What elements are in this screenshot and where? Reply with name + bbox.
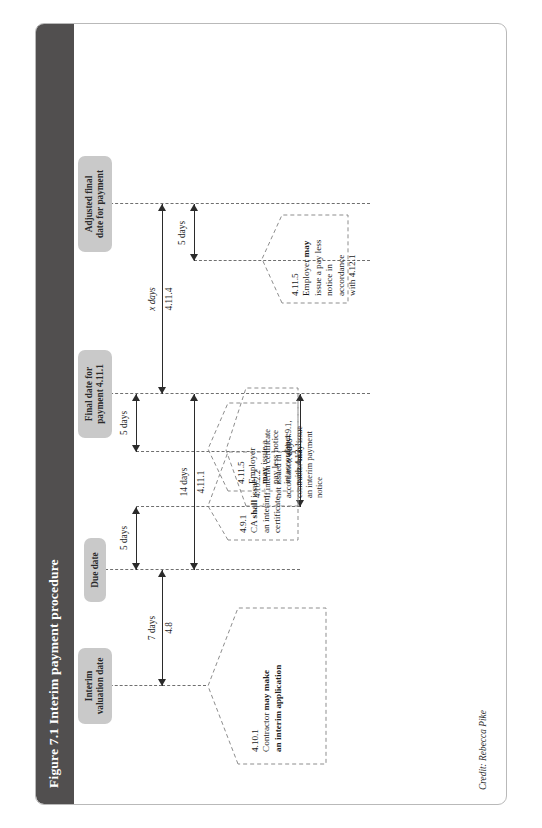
callout-4-10-1-ref: 4.10.1 (250, 612, 261, 752)
rule-interim-valuation-date-lower (162, 685, 206, 686)
callout-4-9-1-line1a: CA (249, 518, 259, 533)
figure-canvas: Interim valuation date Due date Final da… (74, 24, 506, 804)
callout-4-10-2-2-line5: an interim payment (304, 386, 314, 498)
chip-due-date: Due date (84, 538, 106, 602)
arrow-line-14-days (194, 394, 195, 570)
callout-4-11-5-b-line3: notice in (324, 214, 335, 296)
chip-final-date-for-payment: Final date for payment 4.11.1 (78, 350, 112, 438)
chip-adjusted-final-date-line1: Adjusted final (84, 176, 95, 233)
chip-interim-valuation-date: Interim valuation date (78, 648, 112, 724)
arrow-line-5-days-pln (136, 394, 137, 452)
callout-4-10-2-2-line4a: contractor (294, 461, 304, 498)
arrow-head-left-5-days-adj (190, 254, 198, 261)
duration-label-5-days-cert: 5 days (119, 498, 129, 578)
rotated-figure-wrapper: Figure 7.1 Interim payment procedure Int… (35, 23, 507, 805)
chip-interim-valuation-date-line1: Interim (84, 671, 95, 701)
arrow-head-right-5-days-pln (132, 394, 140, 401)
chip-due-date-label: Due date (90, 552, 101, 587)
arrow-head-left-5-days-pln (132, 445, 140, 452)
callout-4-10-2-2: 4.10.2.2 If interim certificate not issu… (224, 386, 300, 508)
duration-label-7-days: 7 days (147, 588, 157, 668)
duration-label-14-days: 14 days (179, 442, 189, 522)
arrow-line-5-days-cert (136, 507, 137, 570)
callout-4-10-2-2-line3: accordance with 4.9.1, (283, 386, 293, 498)
callout-4-11-5-b-line1a: Employer (301, 257, 311, 296)
callout-4-10-2-2-text: 4.10.2.2 If interim certificate not issu… (252, 386, 325, 498)
callout-4-11-5-b-line4: accordance (336, 214, 347, 296)
callout-4-10-2-2-line1: If interim certificate (262, 386, 272, 498)
arrow-head-left-7-days (158, 679, 166, 686)
callout-4-11-5-b: 4.11.5 Employer may issue a pay less not… (260, 213, 350, 305)
arrow-head-right-5-days-cert (132, 507, 140, 514)
callout-4-11-5-b-line1: Employer may (301, 214, 312, 296)
callout-4-10-2-2-line2: not issued in (273, 386, 283, 498)
chip-final-date-line1: Final date for (84, 367, 95, 421)
callout-4-10-1-line2b: an interim application (273, 665, 283, 752)
callout-4-11-5-b-text: 4.11.5 Employer may issue a pay less not… (290, 214, 358, 296)
callout-4-11-5-b-line5: with 4.12.1 (347, 214, 358, 296)
arrow-line-5-days-adj (194, 204, 195, 261)
arrow-head-right-14-days (190, 394, 198, 401)
callout-4-10-1-line1: Contractor may make (261, 612, 272, 752)
duration-label-5-days-pln: 5 days (119, 383, 129, 463)
arrow-head-right-5-days-adj (190, 204, 198, 211)
chip-adjusted-final-date: Adjusted final date for payment (78, 156, 112, 252)
chip-final-date-line2: payment 4.11.1 (95, 364, 106, 424)
callout-4-11-5-b-line1b: may (301, 241, 311, 258)
figure-title-bar: Figure 7.1 Interim payment procedure (36, 23, 74, 804)
arrow-head-left-14-days (190, 563, 198, 570)
rule-due-date (100, 569, 300, 570)
rule-adjusted-final-date (100, 203, 370, 204)
callout-4-10-2-2-line4: contractor may issue (294, 386, 304, 498)
callout-4-11-5-b-ref: 4.11.5 (290, 214, 301, 296)
duration-label-x-days-final: x days (147, 259, 157, 339)
arrow-line-7-days (162, 570, 163, 686)
callout-4-10-1-line1a: Contractor (261, 710, 271, 752)
duration-clause-14-days: 4.11.1 (196, 442, 206, 522)
callout-4-10-2-2-line4b: may (294, 445, 304, 461)
arrow-head-left-5-days-cert (132, 563, 140, 570)
duration-label-5-days-adj: 5 days (177, 193, 187, 273)
arrow-head-right-x-days-final (158, 204, 166, 211)
screenshot-page: Figure 7.1 Interim payment procedure Int… (0, 0, 542, 828)
duration-label-x-days-final-text: x days (147, 287, 157, 311)
callout-4-10-1-text: 4.10.1 Contractor may make an interim ap… (250, 612, 284, 752)
callout-4-10-1-line2: an interim application (273, 612, 284, 752)
chip-interim-valuation-date-line2: valuation date (95, 658, 106, 715)
figure-title: Figure 7.1 Interim payment procedure (46, 559, 62, 788)
callout-4-10-2-2-line4c: issue (294, 426, 304, 445)
duration-clause-x-days-final: 4.11.4 (164, 259, 174, 339)
arrow-head-right-7-days (158, 570, 166, 577)
chip-adjusted-final-date-line2: date for payment (95, 170, 106, 238)
arrow-head-left-x-days-final (158, 387, 166, 394)
figure-frame: Figure 7.1 Interim payment procedure Int… (35, 23, 507, 805)
callout-4-10-2-2-line6: notice (314, 386, 324, 498)
figure-credit: Credit: Rebecca Pike (478, 710, 488, 790)
callout-4-11-5-b-line2: issue a pay less (313, 214, 324, 296)
duration-clause-7-days: 4.8 (164, 588, 174, 668)
callout-4-10-2-2-ref: 4.10.2.2 (252, 386, 262, 498)
callout-4-10-1: 4.10.1 Contractor may make an interim ap… (206, 606, 328, 766)
callout-4-10-1-line1b: may make (261, 670, 271, 711)
arrow-line-x-days-final (162, 204, 163, 394)
